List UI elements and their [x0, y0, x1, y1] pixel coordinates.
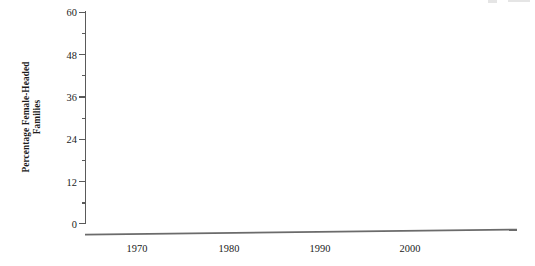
- y-axis-tick-label-48: 48: [67, 49, 77, 60]
- y-axis-title-line-2: Families: [32, 62, 43, 173]
- y-axis-title: Percentage Female-Headed Families: [21, 62, 44, 173]
- y-axis-tick-label-12: 12: [67, 176, 77, 187]
- plot-area: [85, 11, 517, 224]
- chart-screenshot: Percentage Female-Headed Families 60 48 …: [0, 0, 535, 266]
- y-axis-minor-tick-6: [82, 202, 85, 203]
- y-axis-title-container: Percentage Female-Headed Families: [6, 12, 58, 222]
- scan-artifact-mark: [488, 0, 497, 3]
- y-axis-tick-24: [79, 139, 85, 140]
- x-axis-tick-label-1990: 1990: [310, 243, 331, 254]
- x-axis-tick-label-2000: 2000: [400, 243, 421, 254]
- y-axis-tick-60: [79, 12, 85, 13]
- y-axis-minor-tick-30: [82, 118, 85, 119]
- y-axis-minor-tick-18: [82, 160, 85, 161]
- y-axis-tick-0: [79, 223, 85, 224]
- y-axis-minor-tick-54: [82, 33, 85, 34]
- y-axis-tick-label-24: 24: [67, 134, 77, 145]
- y-axis-minor-tick-42: [82, 75, 85, 76]
- y-axis-spine: [85, 11, 86, 224]
- plot-frame: 60 48 36 24 12 0 1970 1980 1990 2000: [85, 11, 517, 224]
- y-axis-tick-12: [79, 181, 85, 182]
- scan-artifact-rule: [508, 0, 530, 2]
- y-axis-tick-label-36: 36: [67, 92, 77, 103]
- x-axis-tick-label-1970: 1970: [127, 243, 148, 254]
- y-axis-tick-48: [79, 54, 85, 55]
- x-axis-tick-label-1980: 1980: [219, 243, 240, 254]
- y-axis-title-line-1: Percentage Female-Headed: [21, 62, 32, 173]
- y-axis-tick-label-0: 0: [72, 218, 77, 229]
- y-axis-tick-label-60: 60: [67, 7, 77, 18]
- x-axis-spine: [85, 216, 521, 236]
- y-axis-tick-36: [79, 96, 85, 97]
